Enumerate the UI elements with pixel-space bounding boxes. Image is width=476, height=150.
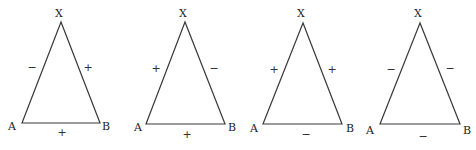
vertex-label-a: A: [249, 122, 259, 135]
edge-sign-ab: +: [182, 128, 191, 141]
vertex-label-x: X: [297, 7, 305, 20]
edge-sign-xa: +: [269, 63, 278, 76]
edge-sign-xa: −: [27, 61, 36, 74]
triangle-2: XAB+−+: [133, 7, 236, 141]
triangle-4: XAB−−−: [365, 7, 471, 143]
triangle-1: XAB−++: [7, 7, 110, 139]
vertex-label-a: A: [365, 124, 375, 137]
edge-sign-ab: −: [301, 128, 310, 141]
vertex-label-b: B: [102, 120, 110, 133]
edge-sign-xb: +: [327, 63, 336, 76]
vertex-label-x: X: [414, 7, 422, 20]
vertex-label-x: X: [55, 7, 63, 20]
edge-sign-xa: −: [386, 63, 395, 76]
vertex-label-b: B: [346, 122, 354, 135]
edge-sign-xb: −: [209, 62, 218, 75]
vertex-label-b: B: [463, 124, 471, 137]
vertex-label-x: X: [179, 7, 187, 20]
edge-sign-xa: +: [151, 62, 160, 75]
edge-sign-xb: −: [445, 62, 454, 75]
vertex-label-a: A: [7, 120, 17, 133]
triangle-sign-diagram: XAB−++XAB+−+XAB++−XAB−−−: [0, 0, 476, 150]
edge-sign-ab: +: [57, 126, 66, 139]
edge-sign-ab: −: [418, 130, 427, 143]
triangle-3: XAB++−: [249, 7, 354, 141]
edge-sign-xb: +: [83, 61, 92, 74]
vertex-label-a: A: [133, 121, 143, 134]
vertex-label-b: B: [228, 121, 236, 134]
